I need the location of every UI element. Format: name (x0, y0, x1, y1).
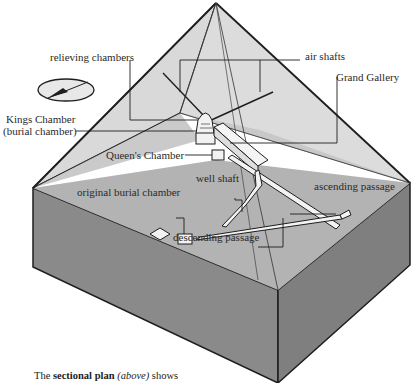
caption-prefix: The (34, 370, 53, 381)
queens-chamber-structure (212, 150, 224, 160)
figure-caption: The sectional plan (above) shows (34, 370, 178, 381)
label-descending-passage: descending passage (173, 231, 259, 243)
label-well-shaft: well shaft (196, 172, 239, 184)
label-kings-chamber-sub: (burial chamber) (3, 125, 77, 137)
compass-arrow-icon (38, 79, 94, 101)
caption-suffix: shows (149, 370, 178, 381)
label-relieving-chambers: relieving chambers (50, 51, 134, 63)
caption-italic: (above) (117, 370, 149, 381)
caption-bold: sectional plan (53, 370, 115, 381)
label-air-shafts: air shafts (305, 50, 345, 62)
label-grand-gallery: Grand Gallery (336, 71, 399, 83)
label-ascending-passage: ascending passage (314, 180, 395, 192)
pyramid-diagram: relieving chambers air shafts Grand Gall… (0, 0, 416, 383)
label-original-burial-chamber: original burial chamber (77, 186, 180, 198)
label-queens-chamber: Queen's Chamber (106, 149, 184, 161)
label-kings-chamber: Kings Chamber (6, 113, 75, 125)
